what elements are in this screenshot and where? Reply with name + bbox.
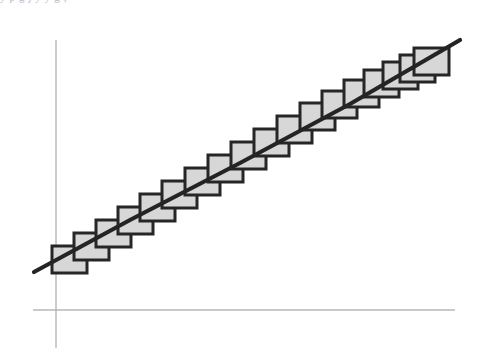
figure-container: y p g j y y g ,: [0, 0, 479, 355]
figure-canvas: [0, 0, 479, 355]
